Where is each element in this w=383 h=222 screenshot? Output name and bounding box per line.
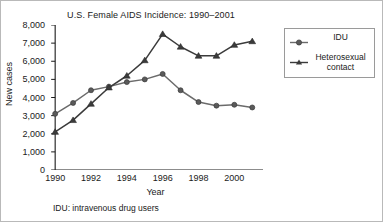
series-line-1 xyxy=(55,74,252,114)
legend-label-heterosexual-contact: Heterosexual contact xyxy=(309,52,372,72)
data-point-marker xyxy=(124,80,129,85)
x-axis-label: Year xyxy=(48,187,263,197)
y-axis-tick-label: 2,000 xyxy=(22,129,45,139)
x-axis-tick-label: 1996 xyxy=(153,173,173,183)
y-axis-tick-label: 6,000 xyxy=(22,56,45,66)
data-point-marker xyxy=(53,111,58,116)
legend-label-line1: Heterosexual xyxy=(315,52,365,62)
chart-title: U.S. Female AIDS Incidence: 1990–2001 xyxy=(1,10,301,20)
series-line-2 xyxy=(55,34,252,132)
plot-area xyxy=(48,25,263,170)
data-point-marker xyxy=(142,77,147,82)
y-axis-tick-labels: 01,0002,0003,0004,0005,0006,0007,0008,00… xyxy=(7,25,45,170)
triangle-marker-icon xyxy=(289,52,309,71)
y-axis-tick-label: 1,000 xyxy=(22,147,45,157)
y-axis-tick-label: 4,000 xyxy=(22,93,45,103)
y-axis-tick-label: 7,000 xyxy=(22,38,45,48)
data-point-marker xyxy=(232,102,237,107)
x-axis-tick-label: 1990 xyxy=(45,173,65,183)
chart-legend: IDU Heterosexual contact xyxy=(284,28,375,78)
data-point-marker xyxy=(89,88,94,93)
legend-item-idu[interactable]: IDU xyxy=(289,32,372,51)
plot-svg xyxy=(48,25,263,170)
data-point-marker xyxy=(178,88,183,93)
y-axis-tick-label: 8,000 xyxy=(22,20,45,30)
circle-marker-icon xyxy=(289,32,309,51)
data-point-marker xyxy=(160,71,165,76)
x-axis-tick-label: 1998 xyxy=(188,173,208,183)
x-axis-tick-label: 2000 xyxy=(224,173,244,183)
legend-item-heterosexual-contact[interactable]: Heterosexual contact xyxy=(289,52,372,72)
x-axis-tick-label: 1994 xyxy=(117,173,137,183)
data-point-marker xyxy=(71,100,76,105)
legend-label-idu: IDU xyxy=(309,32,372,42)
data-point-marker xyxy=(250,105,255,110)
data-point-marker xyxy=(214,103,219,108)
legend-label-line2: contact xyxy=(327,62,354,72)
x-axis-tick-labels: 199019921994199619982000 xyxy=(48,173,263,187)
chart-figure: U.S. Female AIDS Incidence: 1990–2001 Ne… xyxy=(0,0,383,222)
y-axis-tick-label: 5,000 xyxy=(22,74,45,84)
data-point-marker xyxy=(249,38,256,44)
data-point-marker xyxy=(159,31,166,37)
data-point-marker xyxy=(196,100,201,105)
y-axis-tick-label: 3,000 xyxy=(22,111,45,121)
figure-footnote: IDU: intravenous drug users xyxy=(53,203,159,213)
x-axis-tick-label: 1992 xyxy=(81,173,101,183)
